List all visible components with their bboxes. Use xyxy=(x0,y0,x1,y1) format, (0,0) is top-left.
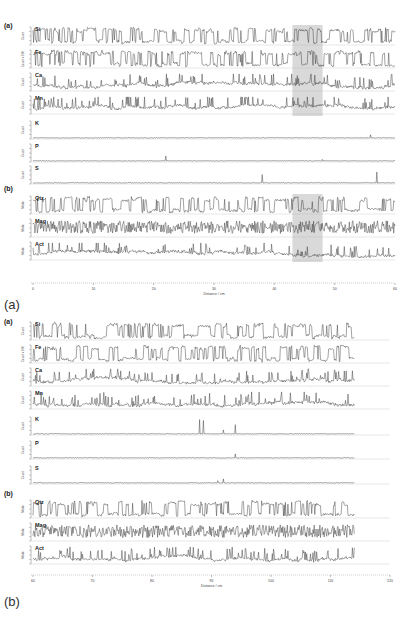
track-ca: CountCa xyxy=(21,367,390,386)
track-ca: CountCa xyxy=(21,72,395,91)
track-act: ModeAct xyxy=(21,545,390,564)
y-axis-label: Count xyxy=(21,422,25,430)
y-axis-label: Mode xyxy=(21,505,25,513)
series-label: Mn xyxy=(35,95,44,101)
chart-panel-a: (a)(b)CountSiCount x 100FeCountCaCountMn… xyxy=(4,22,397,296)
track-k: CountK xyxy=(21,416,390,435)
y-axis-label: Count x 100 xyxy=(21,346,25,363)
x-tick-label: 90 xyxy=(210,579,214,583)
series-label: P xyxy=(35,440,39,446)
group-label-elements: (a) xyxy=(4,318,13,326)
series-line xyxy=(33,420,354,435)
series-label: K xyxy=(35,120,39,126)
caption-a: (a) xyxy=(4,297,20,312)
series-label: Mn xyxy=(35,390,44,396)
series-line xyxy=(33,454,354,458)
x-axis: 60708090100110120Distance / cm xyxy=(31,575,393,588)
series-line xyxy=(33,345,354,362)
x-axis: 0102030405060Distance / cm xyxy=(31,283,397,296)
x-tick-label: 40 xyxy=(272,287,276,291)
series-line xyxy=(33,50,395,67)
series-line xyxy=(33,74,395,89)
figure-canvas: (a)(b)CountSiCount x 100FeCountCaCountMn… xyxy=(0,0,415,626)
y-axis-label: Count xyxy=(21,78,25,86)
series-line xyxy=(33,500,354,517)
y-axis-label: Mode xyxy=(21,224,25,232)
x-tick-label: 20 xyxy=(152,287,156,291)
y-axis-label: Count xyxy=(21,101,25,109)
series-line xyxy=(33,135,395,138)
track-qtz: ModeQtz xyxy=(21,499,390,518)
x-tick-label: 60 xyxy=(31,579,35,583)
caption-b: (b) xyxy=(4,594,20,609)
track-fe: Count x 100Fe xyxy=(21,49,395,68)
x-tick-label: 60 xyxy=(393,287,397,291)
series-line xyxy=(33,97,395,111)
y-axis-label: Count x 100 xyxy=(21,51,25,68)
y-axis-label: Count xyxy=(21,171,25,179)
track-s: CountS xyxy=(21,465,390,484)
series-label: K xyxy=(35,416,39,422)
x-tick-label: 70 xyxy=(91,579,95,583)
series-line xyxy=(33,322,354,339)
y-axis-label: Mode xyxy=(21,201,25,209)
series-line xyxy=(33,479,354,483)
series-label: S xyxy=(35,465,39,471)
group-label-minerals: (b) xyxy=(4,185,13,193)
track-mn: CountMn xyxy=(21,390,390,409)
series-label: Ca xyxy=(35,72,43,78)
track-si: CountSi xyxy=(21,321,390,340)
series-line xyxy=(33,27,395,44)
x-tick-label: 120 xyxy=(387,579,393,583)
x-tick-label: 0 xyxy=(32,287,34,291)
series-label: Act xyxy=(35,545,44,551)
y-axis-label: Count xyxy=(21,32,25,40)
y-axis-label: Count xyxy=(21,446,25,454)
track-mag: ModeMag xyxy=(21,218,395,237)
y-axis-label: Count xyxy=(21,126,25,134)
y-axis-label: Mode xyxy=(21,247,25,255)
track-p: CountP xyxy=(21,440,390,459)
y-axis-label: Count xyxy=(21,327,25,335)
group-label-minerals: (b) xyxy=(4,490,13,498)
series-label: S xyxy=(35,165,39,171)
x-axis-label: Distance / cm xyxy=(201,584,222,588)
series-label: Ca xyxy=(35,367,43,373)
y-axis-label: Mode xyxy=(21,551,25,559)
series-line xyxy=(33,547,354,562)
x-tick-label: 100 xyxy=(268,579,274,583)
y-axis-label: Count xyxy=(21,471,25,479)
series-line xyxy=(33,525,354,538)
y-axis-label: Count xyxy=(21,373,25,381)
track-fe: Count x 100Fe xyxy=(21,344,390,363)
series-label: Qtz xyxy=(35,499,44,505)
track-s: CountS xyxy=(21,165,395,184)
series-label: P xyxy=(35,143,39,149)
series-label: Fe xyxy=(35,344,41,350)
group-label-elements: (a) xyxy=(4,22,13,30)
series-line xyxy=(33,221,395,234)
x-tick-label: 50 xyxy=(333,287,337,291)
series-line xyxy=(33,369,354,384)
y-axis-label: Count xyxy=(21,149,25,157)
track-mag: ModeMag xyxy=(21,522,390,541)
track-si: CountSi xyxy=(21,26,395,45)
track-act: ModeAct xyxy=(21,241,395,260)
chart-panel-b: (a)(b)CountSiCount x 100FeCountCaCountMn… xyxy=(4,318,393,588)
x-tick-label: 110 xyxy=(328,579,334,583)
series-line xyxy=(33,196,395,213)
series-line xyxy=(33,392,354,407)
series-label: Mag xyxy=(35,218,46,224)
y-axis-label: Count xyxy=(21,396,25,404)
track-mn: CountMn xyxy=(21,95,395,114)
series-label: Mag xyxy=(35,522,46,528)
track-k: CountK xyxy=(21,120,395,139)
track-qtz: ModeQtz xyxy=(21,195,395,214)
x-tick-label: 80 xyxy=(150,579,154,583)
x-tick-label: 30 xyxy=(212,287,216,291)
x-axis-label: Distance / cm xyxy=(203,292,224,296)
y-axis-label: Mode xyxy=(21,528,25,536)
series-line xyxy=(33,172,395,183)
x-tick-label: 10 xyxy=(91,287,95,291)
series-line xyxy=(33,156,395,161)
